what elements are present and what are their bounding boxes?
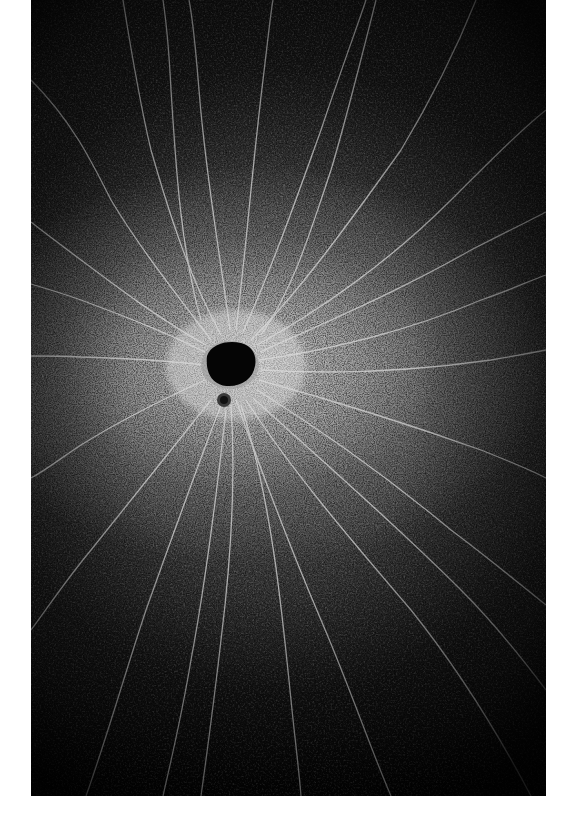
edge-vignette — [31, 0, 546, 796]
aerial-photo — [31, 0, 546, 796]
